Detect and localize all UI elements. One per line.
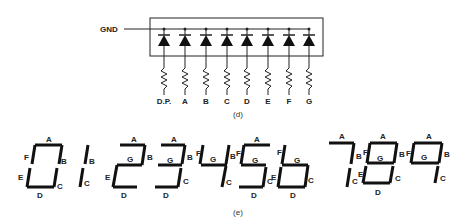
diode-1 — [179, 28, 191, 96]
caption-d: (d) — [233, 110, 243, 119]
svg-text:B: B — [187, 153, 193, 162]
digit-0: A B C D E F — [18, 135, 67, 200]
digit-4: F G B C — [196, 145, 236, 187]
svg-text:G: G — [210, 155, 216, 164]
svg-text:F: F — [406, 149, 411, 158]
svg-text:D: D — [121, 191, 127, 200]
diode-4 — [241, 28, 253, 96]
svg-text:C: C — [84, 179, 90, 188]
digit-3: A B G C D — [155, 135, 193, 200]
svg-text:F: F — [196, 149, 201, 158]
svg-text:B: B — [399, 150, 405, 159]
svg-text:B: B — [89, 157, 95, 166]
input-label-c: C — [224, 97, 230, 106]
gnd-label: GND — [100, 25, 118, 34]
svg-text:D: D — [163, 191, 169, 200]
digit-shapes: A B C D E F B C A B G E D — [18, 132, 450, 217]
svg-text:G: G — [421, 153, 427, 162]
svg-text:E: E — [358, 170, 364, 179]
digit-1: B C — [80, 145, 95, 188]
svg-text:D: D — [37, 191, 43, 200]
input-label-dp: D.P. — [157, 97, 172, 106]
svg-text:B: B — [147, 153, 153, 162]
svg-text:D: D — [251, 191, 257, 200]
seven-segment-diagram: GND — [0, 0, 475, 219]
svg-text:F: F — [236, 149, 241, 158]
svg-text:A: A — [380, 132, 386, 141]
input-label-a: A — [182, 97, 188, 106]
input-label-b: B — [203, 97, 209, 106]
svg-text:G: G — [294, 156, 300, 165]
svg-text:C: C — [308, 176, 314, 185]
diode-7 — [303, 28, 315, 96]
svg-text:F: F — [24, 153, 29, 162]
svg-text:A: A — [46, 135, 52, 144]
diode-6 — [283, 28, 295, 96]
svg-text:A: A — [426, 132, 432, 141]
svg-text:G: G — [127, 155, 133, 164]
diode-0 — [158, 28, 170, 96]
digit-5: A F G C D — [236, 135, 273, 200]
svg-text:B: B — [61, 157, 67, 166]
svg-text:D: D — [290, 191, 296, 200]
input-label-f: F — [287, 97, 292, 106]
svg-text:E: E — [105, 173, 111, 182]
svg-text:A: A — [254, 135, 260, 144]
svg-text:F: F — [363, 148, 368, 157]
svg-text:B: B — [356, 152, 362, 161]
svg-text:G: G — [377, 154, 383, 163]
svg-text:C: C — [395, 174, 401, 183]
svg-text:A: A — [131, 135, 137, 144]
diode-2 — [200, 28, 212, 96]
svg-text:F: F — [277, 148, 282, 157]
svg-text:C: C — [226, 178, 232, 187]
diode-5 — [262, 28, 274, 96]
svg-text:A: A — [171, 135, 177, 144]
digit-6: F G E C D — [271, 145, 314, 200]
svg-text:D: D — [375, 188, 381, 197]
svg-text:C: C — [57, 182, 63, 191]
svg-text:G: G — [252, 156, 258, 165]
caption-e: (e) — [233, 208, 243, 217]
svg-text:E: E — [271, 173, 277, 182]
svg-text:B: B — [444, 150, 450, 159]
svg-text:E: E — [18, 173, 24, 182]
svg-text:G: G — [167, 156, 173, 165]
input-label-d: D — [244, 97, 250, 106]
input-label-g: G — [306, 97, 312, 106]
diode-3 — [221, 28, 233, 96]
digit-8: A F B G E C D — [358, 132, 405, 197]
svg-text:C: C — [183, 177, 189, 186]
svg-text:C: C — [440, 174, 446, 183]
svg-text:A: A — [339, 132, 345, 141]
digit-2: A B G E D — [105, 135, 153, 200]
led-circuit: GND — [100, 18, 323, 119]
input-label-e: E — [265, 97, 271, 106]
led-package-box — [150, 18, 323, 56]
digit-9: A F B G C — [406, 132, 450, 183]
